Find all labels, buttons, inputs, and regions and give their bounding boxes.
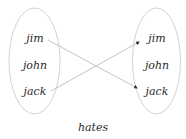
arrow-jim-to-jack bbox=[48, 40, 137, 88]
codomain-element-john: john bbox=[142, 59, 169, 72]
domain-element-jim: jim bbox=[23, 32, 43, 45]
mapping-edges bbox=[48, 40, 139, 91]
domain-element-jack: jack bbox=[21, 85, 47, 98]
relation-diagram: jim john jack jim john jack hates bbox=[0, 0, 186, 139]
codomain-element-jack: jack bbox=[143, 85, 169, 98]
arrow-jack-to-jim bbox=[51, 42, 139, 91]
relation-label: hates bbox=[78, 121, 109, 134]
domain-set: jim john jack bbox=[9, 8, 60, 114]
codomain-element-jim: jim bbox=[145, 32, 165, 45]
domain-element-john: john bbox=[20, 59, 47, 72]
codomain-set: jim john jack bbox=[133, 8, 181, 114]
